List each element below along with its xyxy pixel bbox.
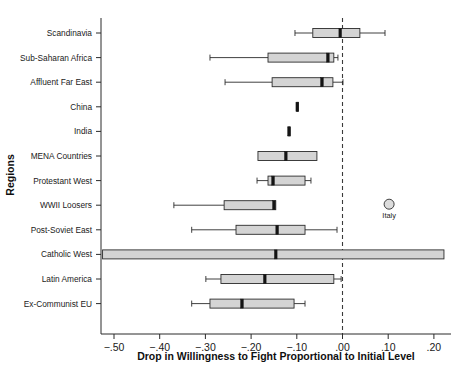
boxplot-post-soviet-east — [192, 225, 337, 234]
box-iqr — [224, 201, 276, 210]
box-iqr — [313, 29, 360, 38]
boxplot-figure: Italy −.50−.40−.30−.20−.10.00.10.20 Scan… — [0, 0, 453, 367]
median-line — [288, 127, 291, 136]
x-axis-title: Drop in Willingness to Fight Proportiona… — [137, 350, 415, 362]
median-line — [274, 250, 277, 259]
y-axis-categories-layer: ScandinaviaSub-Saharan AfricaAffluent Fa… — [20, 28, 101, 309]
outlier-label: Italy — [382, 211, 396, 220]
median-line — [241, 299, 244, 308]
x-tick-label-7: .20 — [427, 341, 442, 353]
y-category-label-scandinavia: Scandinavia — [47, 28, 93, 38]
box-iqr — [210, 299, 294, 308]
y-category-label-sub-saharan-africa: Sub-Saharan Africa — [20, 53, 92, 63]
box-series-layer — [103, 29, 444, 309]
boxplot-mena-countries — [258, 152, 317, 161]
boxplot-scandinavia — [295, 29, 385, 38]
box-iqr — [258, 152, 317, 161]
median-line — [264, 275, 267, 284]
outlier-italy: Italy — [382, 199, 396, 220]
boxplot-latin-america — [206, 275, 341, 284]
y-category-label-china: China — [70, 102, 92, 112]
box-iqr — [236, 225, 305, 234]
boxplot-sub-saharan-africa — [210, 53, 338, 62]
y-category-label-india: India — [74, 126, 92, 136]
boxplot-india — [288, 127, 291, 136]
boxplot-affluent-far-east — [225, 78, 343, 87]
y-category-label-post-soviet-east: Post-Soviet East — [31, 225, 93, 235]
box-iqr — [221, 275, 334, 284]
y-axis-title: Regions — [4, 154, 16, 196]
boxplot-ex-communist-eu — [192, 299, 305, 308]
box-iqr — [268, 53, 334, 62]
y-category-label-latin-america: Latin America — [42, 274, 93, 284]
median-line — [321, 78, 324, 87]
y-category-label-protestant-west: Protestant West — [33, 176, 93, 186]
median-line — [296, 102, 299, 111]
median-line — [273, 201, 276, 210]
outlier-marker — [384, 199, 394, 209]
boxplot-catholic-west — [103, 250, 444, 259]
y-category-label-catholic-west: Catholic West — [41, 249, 93, 259]
median-line — [272, 176, 275, 185]
boxplot-wwii-loosers — [174, 201, 276, 210]
box-iqr — [103, 250, 444, 259]
median-line — [339, 29, 342, 38]
outlier-layer: Italy — [382, 199, 396, 220]
y-category-label-ex-communist-eu: Ex-Communist EU — [24, 299, 92, 309]
median-line — [285, 152, 288, 161]
box-iqr — [272, 78, 333, 87]
boxplot-protestant-west — [257, 176, 311, 185]
y-category-label-affluent-far-east: Affluent Far East — [30, 77, 92, 87]
boxplot-china — [296, 102, 299, 111]
x-tick-label-0: −.50 — [104, 341, 125, 353]
y-category-label-wwii-loosers: WWII Loosers — [40, 200, 92, 210]
y-category-label-mena-countries: MENA Countries — [31, 151, 92, 161]
median-line — [327, 53, 330, 62]
median-line — [276, 225, 279, 234]
boxplot-canvas: Italy −.50−.40−.30−.20−.10.00.10.20 Scan… — [0, 0, 453, 367]
